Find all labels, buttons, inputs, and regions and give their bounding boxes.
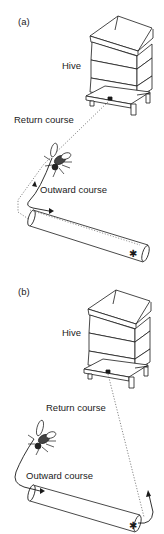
panel-a: (a) Hive Return course Outward course — [0, 0, 164, 267]
outward-arrowhead — [49, 208, 54, 214]
panel-b: (b) Hive Return course Outward course — [0, 267, 164, 534]
turnaround-arrowhead — [146, 490, 151, 497]
diagram-b: ✱ — [0, 267, 164, 534]
bee-icon — [44, 142, 72, 177]
return-course-path — [108, 374, 144, 517]
bee-icon — [28, 419, 57, 455]
return-arrowhead — [32, 181, 37, 187]
food-source-asterisk: ✱ — [129, 520, 137, 531]
beehive-icon — [86, 16, 153, 115]
diagram-a: ✱ — [0, 0, 164, 267]
outward-course-path — [28, 158, 52, 211]
beehive-icon — [84, 290, 151, 388]
food-source-asterisk: ✱ — [129, 248, 137, 259]
